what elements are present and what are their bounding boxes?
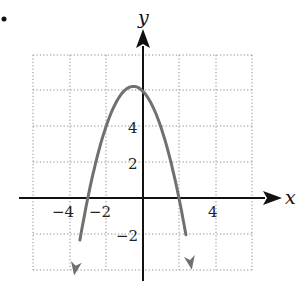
- y-axis-label: y: [137, 6, 149, 28]
- x-tick-neg2: −2: [89, 203, 111, 221]
- y-axis-arrow-icon: [136, 29, 150, 48]
- x-axis-label: x: [285, 186, 296, 208]
- axes: [19, 29, 282, 281]
- x-tick-4: 4: [208, 203, 218, 221]
- bullet-marker: [2, 17, 7, 22]
- x-tick-neg4: −4: [52, 203, 74, 221]
- y-tick-2: 2: [128, 155, 138, 173]
- parabola-graph: x y −4 −2 4 4 2 −2: [0, 0, 308, 302]
- curve-right-arrow-icon: [184, 255, 195, 270]
- y-tick-neg2: −2: [116, 227, 138, 245]
- x-axis-arrow-icon: [263, 191, 282, 205]
- curve-left-arrow-icon: [71, 261, 82, 276]
- y-tick-4: 4: [128, 119, 138, 137]
